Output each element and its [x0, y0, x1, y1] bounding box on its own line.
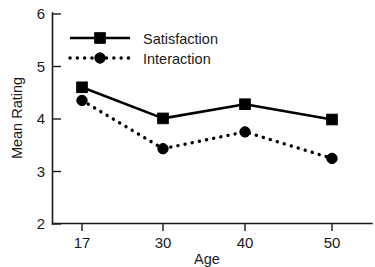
interaction-point-50 [327, 153, 337, 163]
y-tick-label-6: 6 [37, 5, 45, 22]
legend-label-interaction: Interaction [143, 51, 211, 67]
mean-rating-line-chart: 6 5 4 3 2 17 30 40 50 Age Mean Rating [0, 0, 375, 267]
x-tick-label-50: 50 [324, 234, 341, 251]
satisfaction-point-30 [158, 113, 169, 124]
legend-marker-circle-icon [95, 53, 105, 63]
x-tick-label-17: 17 [74, 234, 91, 251]
x-axis-title: Age [194, 251, 220, 267]
interaction-point-17 [77, 95, 87, 105]
legend-marker-square-icon [95, 33, 106, 44]
x-tick-label-30: 30 [155, 234, 172, 251]
y-tick-label-5: 5 [37, 58, 45, 75]
y-tick-label-3: 3 [37, 163, 45, 180]
satisfaction-point-40 [240, 99, 251, 110]
y-tick-label-4: 4 [37, 110, 45, 127]
interaction-point-30 [158, 144, 168, 154]
chart-page: 6 5 4 3 2 17 30 40 50 Age Mean Rating [0, 0, 375, 267]
y-axis-title: Mean Rating [9, 77, 25, 159]
legend-label-satisfaction: Satisfaction [143, 31, 218, 47]
interaction-point-40 [240, 127, 250, 137]
y-tick-label-2: 2 [37, 215, 45, 232]
x-tick-label-40: 40 [237, 234, 254, 251]
satisfaction-point-50 [327, 114, 338, 125]
satisfaction-point-17 [77, 82, 88, 93]
